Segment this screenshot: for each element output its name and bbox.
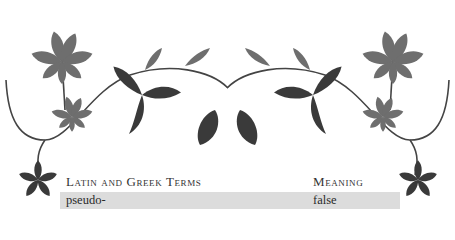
table-row: pseudo- false bbox=[60, 192, 400, 209]
header-latin-greek-terms: Latin and Greek Terms bbox=[66, 174, 201, 190]
vine-right bbox=[227, 69, 449, 140]
vine-left bbox=[6, 69, 228, 140]
meaning-cell: false bbox=[313, 193, 337, 208]
chestnut-leaf-icon bbox=[30, 30, 94, 84]
term-cell: pseudo- bbox=[66, 193, 106, 208]
table-row: psychrophilus (psychrophila, psychrophil… bbox=[60, 210, 400, 211]
header-meaning: Meaning bbox=[313, 174, 363, 190]
